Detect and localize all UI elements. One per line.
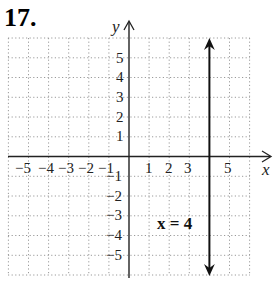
x-tick-labels: −5 −4 −3 −2 −1 1 2 3 5 [15,160,232,176]
x-tick: −2 [78,160,94,176]
y-tick: −3 [106,207,122,223]
problem-number: 17. [4,3,37,32]
x-tick: 5 [224,160,232,176]
y-tick: −5 [106,247,122,263]
y-axis-label: y [110,17,120,36]
x-tick: −4 [38,160,54,176]
coordinate-graph: 17. x y [0,0,278,290]
x-tick: 3 [184,160,192,176]
y-tick: −1 [106,168,122,184]
y-tick: 1 [116,128,124,144]
y-tick: −2 [106,188,122,204]
x-tick: 1 [145,160,153,176]
y-tick: 2 [116,109,124,125]
x-axis-label: x [261,160,270,179]
x-tick: −3 [58,160,74,176]
x-tick: −5 [15,160,31,176]
y-tick: 4 [116,69,124,85]
x-tick: 2 [165,160,173,176]
equation-label: x = 4 [157,214,193,233]
y-tick: −4 [106,227,122,243]
y-tick: 5 [116,50,124,66]
y-tick: 3 [116,89,124,105]
